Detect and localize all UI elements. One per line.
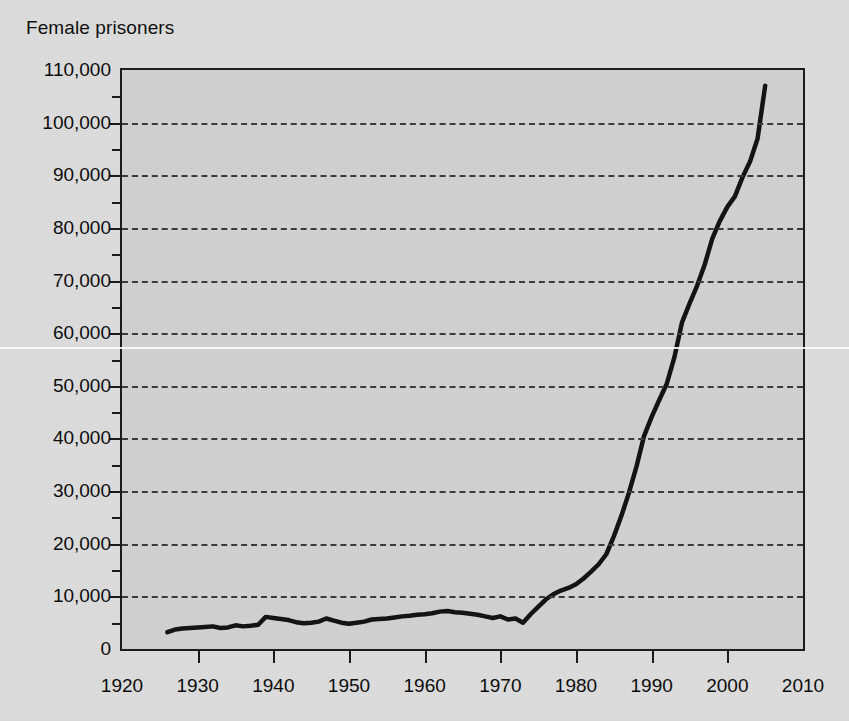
y-axis-label-50000: 50,000 [53,375,111,397]
x-tick-1950 [349,651,351,663]
gridline-y-30000 [122,491,803,493]
x-tick-1980 [576,651,578,663]
x-axis-label-1990: 1990 [631,675,673,697]
y-axis-label-10000: 10,000 [53,585,111,607]
y-tick-60000 [110,333,122,335]
y-axis-label-30000: 30,000 [53,480,111,502]
chart-title: Female prisoners [26,17,174,39]
y-tick-minor-95000 [112,149,122,151]
x-tick-1960 [425,651,427,663]
y-tick-80000 [110,228,122,230]
y-tick-minor-25000 [112,517,122,519]
y-tick-minor-35000 [112,465,122,467]
x-axis-label-2010: 2010 [782,675,824,697]
gridline-y-60000 [122,333,803,335]
y-axis-label-70000: 70,000 [53,270,111,292]
x-tick-1970 [500,651,502,663]
x-axis-label-1950: 1950 [328,675,370,697]
x-axis-label-1920: 1920 [101,675,143,697]
x-tick-1930 [198,651,200,663]
y-tick-30000 [110,491,122,493]
y-tick-90000 [110,175,122,177]
x-tick-2000 [727,651,729,663]
gridline-y-80000 [122,228,803,230]
y-tick-minor-55000 [112,360,122,362]
y-axis-label-40000: 40,000 [53,427,111,449]
x-axis-label-1960: 1960 [404,675,446,697]
y-tick-20000 [110,544,122,546]
gridline-y-20000 [122,544,803,546]
chart-page: Female prisoners 010,00020,00030,00040,0… [0,0,849,721]
x-tick-1990 [652,651,654,663]
y-tick-40000 [110,438,122,440]
y-axis-label-100000: 100,000 [42,112,111,134]
y-tick-minor-65000 [112,307,122,309]
y-axis-label-90000: 90,000 [53,164,111,186]
y-tick-100000 [110,123,122,125]
gridline-y-40000 [122,438,803,440]
gridline-y-100000 [122,123,803,125]
y-axis-label-20000: 20,000 [53,533,111,555]
y-tick-minor-85000 [112,202,122,204]
x-axis-label-1980: 1980 [555,675,597,697]
gridline-y-50000 [122,386,803,388]
gridline-y-70000 [122,281,803,283]
y-tick-50000 [110,386,122,388]
y-tick-70000 [110,281,122,283]
y-axis-label-60000: 60,000 [53,322,111,344]
plot-area [120,68,805,651]
y-tick-minor-75000 [112,254,122,256]
x-axis-label-1930: 1930 [177,675,219,697]
series-line-female-prisoners [122,70,803,649]
x-axis-label-1940: 1940 [252,675,294,697]
x-axis-label-1970: 1970 [479,675,521,697]
x-axis-label-2000: 2000 [706,675,748,697]
y-axis-label-110000: 110,000 [44,59,111,81]
gridline-y-10000 [122,596,803,598]
y-tick-minor-5000 [112,623,122,625]
y-tick-10000 [110,596,122,598]
y-tick-minor-45000 [112,412,122,414]
plot-inner [122,70,803,649]
y-axis-label-80000: 80,000 [53,217,111,239]
gridline-y-90000 [122,175,803,177]
y-tick-minor-105000 [112,96,122,98]
y-tick-minor-15000 [112,570,122,572]
y-axis-label-0: 0 [100,638,111,660]
x-tick-1940 [273,651,275,663]
